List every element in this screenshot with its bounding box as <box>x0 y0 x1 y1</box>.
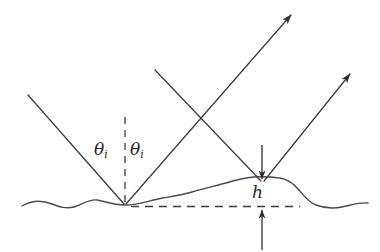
theta-reflected-symbol: θ <box>130 139 140 159</box>
incident-ray-middle <box>155 70 261 181</box>
reflected-ray-left <box>126 15 291 204</box>
reflected-ray-right <box>264 74 350 181</box>
theta-reflected-subscript: i <box>140 148 144 161</box>
theta-incident-symbol: θ <box>94 139 104 159</box>
theta-incident-subscript: i <box>104 148 108 161</box>
diagram-canvas <box>0 0 380 252</box>
incident-ray-left <box>28 95 124 204</box>
height-label: h <box>252 182 263 202</box>
reflection-diagram: θi θi h <box>0 0 380 252</box>
theta-incident-label: θi <box>94 139 108 161</box>
theta-reflected-label: θi <box>130 139 144 161</box>
rough-surface-profile <box>22 177 368 208</box>
